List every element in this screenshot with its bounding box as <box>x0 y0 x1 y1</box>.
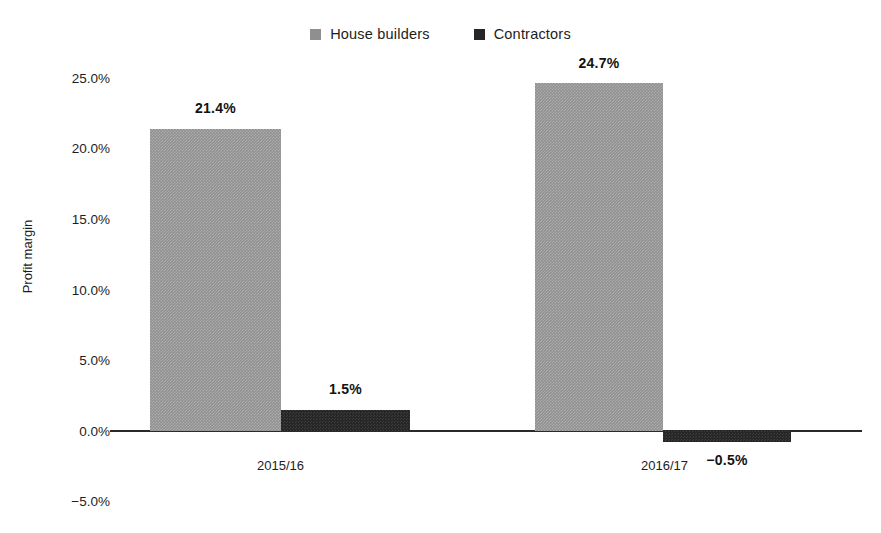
bar-chart: House builders Contractors Profit margin… <box>0 0 881 533</box>
bar-contractors-2016-17 <box>663 431 791 442</box>
bar-value-label-house-builders-2015-16: 21.4% <box>150 100 281 116</box>
x-axis-category-label-2016-17: 2016/17 <box>599 458 730 473</box>
bar-house-builders-2015-16 <box>150 129 281 431</box>
x-axis-category-label-2015-16: 2015/16 <box>215 458 346 473</box>
bar-contractors-2015-16 <box>281 410 410 431</box>
y-axis-tick-label: −5.0% <box>48 494 110 509</box>
y-axis-tick-label: 5.0% <box>48 353 110 368</box>
y-axis-tick-label: 25.0% <box>48 71 110 86</box>
bar-house-builders-2016-17 <box>535 83 663 431</box>
y-axis-tick-label: 0.0% <box>48 424 110 439</box>
y-axis-tick-label: 15.0% <box>48 212 110 227</box>
y-axis-tick-label: 10.0% <box>48 283 110 298</box>
bar-value-label-house-builders-2016-17: 24.7% <box>535 55 663 71</box>
y-axis-title: Profit margin <box>20 197 35 317</box>
bar-value-label-contractors-2015-16: 1.5% <box>281 381 410 397</box>
y-axis-tick-label: 20.0% <box>48 141 110 156</box>
plot-area: Profit margin 25.0% 20.0% 15.0% 10.0% 5.… <box>0 0 881 533</box>
